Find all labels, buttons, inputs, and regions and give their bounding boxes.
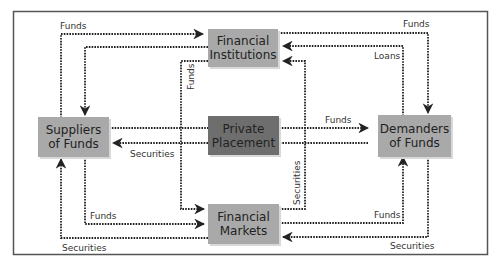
edge-label-suppliers-to-fm-funds: Funds [90, 211, 117, 221]
node-label-line1: Financial [217, 210, 270, 224]
node-label-line2: Institutions [210, 48, 277, 62]
edge-label-fm-to-demanders-funds: Funds [374, 210, 401, 220]
node-financial-markets: Financial Markets [208, 204, 279, 244]
node-label-line2: Markets [217, 224, 270, 238]
node-private-placement: Private Placement [208, 116, 279, 155]
edge-label-fm-to-fi-securities: Securities [292, 161, 302, 205]
node-label-line1: Demanders [380, 122, 449, 136]
node-label-line2: of Funds [46, 137, 102, 151]
node-label-line1: Financial [210, 34, 277, 48]
node-label-line1: Suppliers [46, 123, 102, 137]
edge-label-demanders-to-fm-securities: Securities [390, 241, 434, 251]
edge-label-pp-to-suppliers-securities: Securities [130, 149, 174, 159]
edge-label-suppliers-to-fi-funds: Funds [60, 21, 87, 31]
edge-label-demanders-to-fi-loans: Loans [374, 51, 400, 61]
edge-label-fm-to-suppliers-securities: Securities [62, 243, 106, 253]
node-financial-institutions: Financial Institutions [208, 29, 278, 67]
node-suppliers-of-funds: Suppliers of Funds [38, 117, 109, 157]
edge-label-fi-to-fm-funds: Funds [186, 64, 196, 91]
node-label-line2: of Funds [380, 136, 449, 150]
node-label-line1: Private [212, 122, 275, 136]
edge-label-fi-to-demanders-funds: Funds [403, 19, 430, 29]
node-demanders-of-funds: Demanders of Funds [378, 115, 451, 157]
arrow-fm-to-suppliers-securities [61, 159, 208, 238]
edge-label-pp-to-demanders-funds: Funds [325, 115, 352, 125]
arrow-fi-to-demanders-funds [278, 33, 428, 113]
node-label-line2: Placement [212, 136, 275, 150]
